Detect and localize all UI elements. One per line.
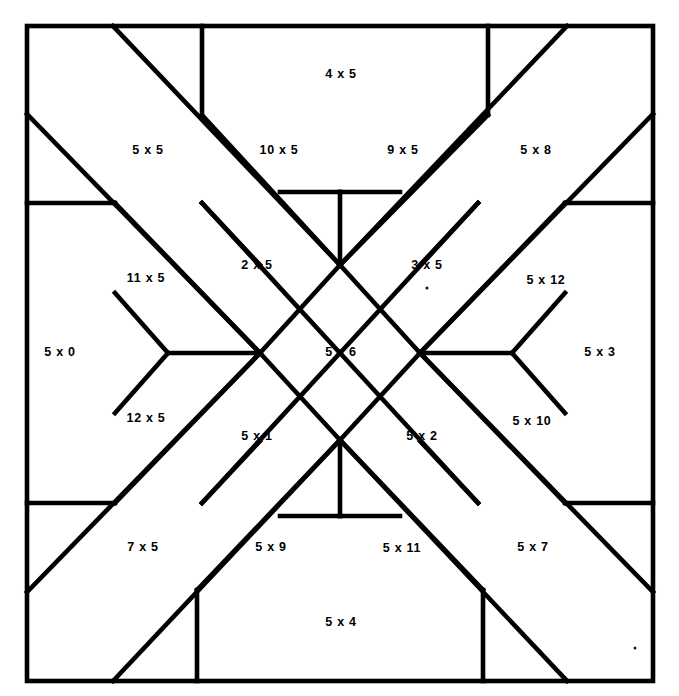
quilt-diagram-root: 4 x 55 x 510 x 59 x 55 x 811 x 52 x 53 x… xyxy=(0,0,679,696)
piece-label-2x5: 2 x 5 xyxy=(241,258,272,272)
piece-label-5x7: 5 x 7 xyxy=(517,540,548,554)
piece-label-5x10: 5 x 10 xyxy=(513,414,552,428)
piece-label-9x5: 9 x 5 xyxy=(387,143,418,157)
piece-label-5x12: 5 x 12 xyxy=(527,273,566,287)
piece-label-10x5: 10 x 5 xyxy=(260,143,299,157)
piece-label-5x11: 5 x 11 xyxy=(383,541,421,555)
piece-label-3x5: 3 x 5 xyxy=(411,258,442,272)
piece-label-5x9: 5 x 9 xyxy=(255,540,286,554)
piece-label-11x5: 11 x 5 xyxy=(127,271,165,285)
piece-label-5x3: 5 x 3 xyxy=(584,345,615,359)
piece-label-7x5: 7 x 5 xyxy=(127,540,158,554)
ink-speck xyxy=(634,647,637,650)
piece-label-5x0: 5 x 0 xyxy=(44,345,75,359)
piece-label-12x5: 12 x 5 xyxy=(127,411,166,425)
quilt-block-svg: 4 x 55 x 510 x 59 x 55 x 811 x 52 x 53 x… xyxy=(0,0,679,696)
ink-speck xyxy=(425,286,428,289)
piece-label-5x5: 5 x 5 xyxy=(132,143,163,157)
piece-label-5x6: 5 x 6 xyxy=(325,345,356,359)
piece-label-4x5: 4 x 5 xyxy=(325,67,356,81)
piece-label-5x4: 5 x 4 xyxy=(325,615,356,629)
piece-label-5x8: 5 x 8 xyxy=(520,143,551,157)
piece-label-5x2: 5 x 2 xyxy=(406,429,437,443)
piece-label-5x1: 5 x 1 xyxy=(241,429,272,443)
